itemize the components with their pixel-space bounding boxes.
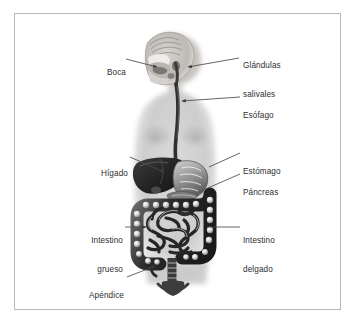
- label-glandulas-salivales-line-1: Glándulas: [243, 61, 281, 71]
- label-apendice-line-1: Apéndice: [58, 291, 124, 301]
- label-intestino-delgado-line-1: Intestino: [243, 236, 275, 246]
- label-pancreas-line-1: Páncreas: [243, 188, 278, 198]
- label-boca-line-1: Boca: [73, 68, 126, 78]
- label-pancreas: Páncreas: [243, 169, 278, 217]
- label-intestino-delgado-line-2: delgado: [243, 265, 275, 275]
- label-higado-line-1: Hígado: [62, 169, 128, 179]
- label-esofago: Esófago: [243, 92, 274, 140]
- label-intestino-delgado: Intestino delgado: [243, 217, 275, 294]
- label-esofago-line-1: Esófago: [243, 111, 274, 121]
- label-intestino-grueso-line-1: Intestino: [56, 236, 123, 246]
- digestive-system-figure: Boca Glándulas salivales Esófago Hígado …: [0, 0, 355, 324]
- label-higado: Hígado: [62, 150, 128, 198]
- anatomy-illustration: [0, 0, 355, 324]
- label-boca: Boca: [73, 49, 126, 97]
- label-apendice: Apéndice: [58, 272, 124, 320]
